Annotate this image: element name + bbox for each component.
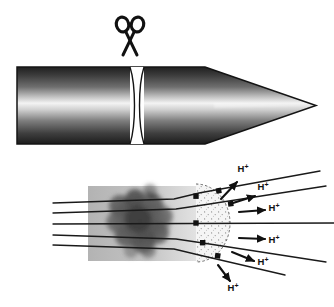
- figure-root: H+ H+ H+ H+ H+ H+: [0, 0, 334, 307]
- exit-marker: [216, 188, 222, 194]
- bullet-cut-section: [130, 67, 144, 144]
- exit-marker: [200, 240, 205, 245]
- exit-marker: [193, 194, 198, 199]
- diagram-canvas: H+ H+ H+ H+ H+ H+: [0, 0, 334, 307]
- proton-arrow: [239, 238, 265, 239]
- exit-marker: [215, 253, 221, 259]
- exit-marker: [193, 220, 198, 225]
